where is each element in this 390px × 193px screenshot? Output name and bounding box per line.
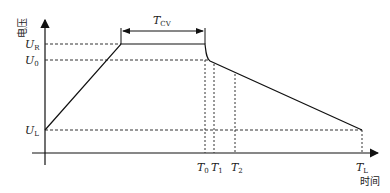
tl-label: TL — [356, 161, 368, 175]
ur-label: UR — [25, 38, 40, 52]
voltage-profile-curve — [45, 44, 362, 130]
t1-label: T1 — [211, 161, 223, 175]
ul-label: UL — [25, 124, 39, 138]
voltage-time-diagram: TCV 电压 UR U0 UL T0 T1 T2 TL 时间 — [0, 0, 390, 193]
tcv-label: TCV — [153, 14, 172, 28]
t0-label: T0 — [197, 161, 209, 175]
x-axis-label: 时间 — [360, 175, 380, 187]
t2-label: T2 — [231, 161, 243, 175]
y-axis-label: 电压 — [16, 18, 28, 38]
u0-label: U0 — [25, 54, 39, 68]
